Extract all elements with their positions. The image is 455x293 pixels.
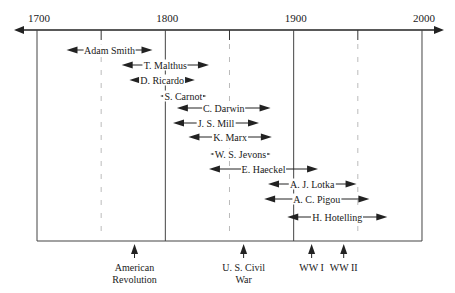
arrow-left-icon	[209, 166, 220, 173]
event-line2: War	[235, 274, 251, 285]
arrow-right-icon	[358, 196, 369, 203]
arrow-left-icon	[268, 181, 279, 188]
lifespan-label: H. Hotelling	[311, 212, 363, 223]
lifespan-label: D. Ricardo	[139, 75, 185, 86]
event-arrow-up-icon	[340, 244, 347, 254]
arrow-right-icon	[346, 181, 357, 188]
event-label: WW II	[330, 262, 358, 274]
axis-right-arrow-icon	[434, 26, 444, 34]
lifespan-label: T. Malthus	[143, 60, 188, 71]
arrow-right-icon	[261, 134, 272, 141]
lifespan-label: J. S. Mill	[197, 118, 236, 129]
arrow-left-icon	[67, 47, 78, 54]
timeline-graphics	[0, 0, 455, 293]
year-label-2000: 2000	[413, 12, 435, 24]
event-label: U. S. CivilWar	[222, 262, 265, 286]
lifespan-label: S. Carnot	[163, 91, 203, 102]
year-label-1900: 1900	[285, 12, 307, 24]
event-arrow-up-icon	[240, 244, 247, 254]
arrow-right-icon	[141, 47, 152, 54]
arrow-left-icon	[122, 62, 133, 69]
year-label-1800: 1800	[156, 12, 178, 24]
arrow-left-icon	[264, 196, 275, 203]
arrow-right-icon	[307, 166, 318, 173]
year-label-1700: 1700	[28, 12, 50, 24]
event-arrow-up-icon	[308, 244, 315, 254]
arrow-right-icon	[260, 105, 271, 112]
event-label: WW I	[299, 262, 324, 274]
lifespan-label: E. Haeckel	[241, 164, 287, 175]
lifespan-label: W. S. Jevons	[214, 149, 267, 160]
event-line1: WW I	[299, 262, 324, 273]
event-line1: American	[115, 262, 154, 273]
axis-left-arrow-icon	[14, 26, 24, 34]
arrow-right-icon	[248, 120, 259, 127]
event-arrow-up-icon	[131, 244, 138, 254]
lifespan-label: Adam Smith	[83, 45, 136, 56]
lifespan-label: K. Marx	[212, 132, 248, 143]
arrow-right-icon	[198, 62, 209, 69]
event-label: AmericanRevolution	[112, 262, 156, 286]
lifespan-label: A. C. Pigou	[292, 194, 341, 205]
event-line2: Revolution	[112, 274, 156, 285]
arrow-left-icon	[177, 105, 188, 112]
lifespan-label: C. Darwin	[202, 103, 246, 114]
arrow-left-icon	[287, 214, 298, 221]
event-line1: WW II	[330, 262, 358, 273]
arrow-right-icon	[376, 214, 387, 221]
arrow-right-icon	[184, 77, 195, 84]
event-line1: U. S. Civil	[222, 262, 265, 273]
timeline-diagram: 1700 1800 1900 2000 Adam Smith T. Malthu…	[0, 0, 455, 293]
lifespan-label: A. J. Lotka	[289, 179, 335, 190]
arrow-left-icon	[173, 120, 184, 127]
arrow-left-icon	[188, 134, 199, 141]
